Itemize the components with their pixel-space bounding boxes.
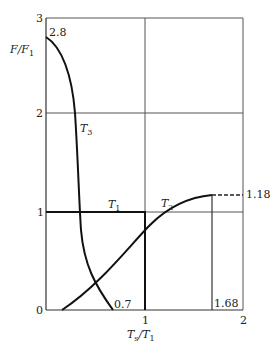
tick-y3: 3 [36,12,43,25]
x-axis-label: Ts/T1 [127,328,155,343]
label-t1: T1 [108,198,120,213]
y-axis-label: F/F1 [9,43,34,58]
tick-x2: 2 [240,314,247,327]
tick-x1: 1 [142,314,149,327]
label-t3: T3 [80,122,92,137]
tick-y2: 2 [36,107,43,120]
curve-t1 [46,212,145,310]
annotation-1-68: 1.68 [214,297,239,310]
label-t2: T2 [161,197,173,212]
annotation-1-18: 1.18 [246,188,271,201]
annotation-2-8: 2.8 [49,26,67,39]
tick-y1: 1 [37,206,44,219]
tick-y0: 0 [36,304,43,317]
annotation-0-7: 0.7 [114,298,132,311]
curve-t3 [46,37,113,310]
chart: 3 2 1 0 1 2 F/F1 Ts/T1 2.8 0.7 1.68 1.18… [0,0,277,353]
